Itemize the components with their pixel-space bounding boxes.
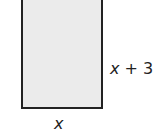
- rectangle-shape: [21, 0, 103, 109]
- width-label: x: [54, 114, 63, 133]
- height-label: x + 3: [110, 59, 153, 78]
